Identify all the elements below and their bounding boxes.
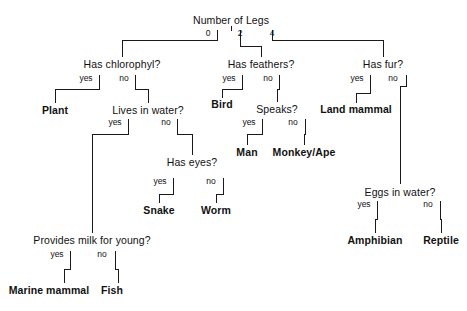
node-has-fur: Has fur? <box>363 58 403 70</box>
edge-milk-yes <box>64 251 70 283</box>
edge-speaks-no <box>304 119 305 145</box>
edge-label-root-4: 4 <box>270 28 275 38</box>
node-plant: Plant <box>42 104 68 116</box>
edge-root-0 <box>122 30 217 57</box>
edge-label-root-2: 2 <box>238 28 243 38</box>
edge-label-feathers-yes: yes <box>222 73 235 83</box>
edge-label-eyes-yes: yes <box>153 176 166 186</box>
edge-water-yes <box>92 119 128 233</box>
edge-label-root-0: 0 <box>206 28 211 38</box>
edge-eggs-yes <box>375 201 377 233</box>
node-man: Man <box>236 146 257 158</box>
edge-label-speaks-yes: yes <box>242 117 255 127</box>
node-land-mammal: Land mammal <box>320 103 392 115</box>
node-has-chlorophyl: Has chlorophyl? <box>84 58 161 70</box>
edge-feathers-no <box>277 75 279 102</box>
edge-label-water-yes: yes <box>108 117 121 127</box>
edge-label-chlorophyl-no: no <box>119 73 128 83</box>
node-monkey-ape: Monkey/Ape <box>273 146 336 158</box>
edge-water-no <box>177 119 192 155</box>
edge-eyes-no <box>216 178 223 203</box>
node-provides-milk: Provides milk for young? <box>33 234 150 246</box>
edge-label-water-no: no <box>161 117 170 127</box>
edge-label-feathers-no: no <box>263 73 272 83</box>
node-eggs-in-water: Eggs in water? <box>365 186 436 198</box>
node-snake: Snake <box>143 204 174 216</box>
edge-label-eggs-yes: yes <box>357 199 370 209</box>
edge-label-chlorophyl-yes: yes <box>79 73 92 83</box>
edge-label-milk-no: no <box>97 249 106 259</box>
node-speaks: Speaks? <box>256 103 298 115</box>
edge-connector-layer <box>0 0 467 311</box>
edge-label-fur-no: no <box>388 73 397 83</box>
node-marine-mammal: Marine mammal <box>9 284 90 296</box>
edge-label-eyes-no: no <box>206 176 215 186</box>
edge-label-milk-yes: yes <box>50 249 63 259</box>
edge-label-speaks-no: no <box>288 117 297 127</box>
node-amphibian: Amphibian <box>347 234 402 246</box>
edge-label-fur-yes: yes <box>350 73 363 83</box>
edge-eggs-no <box>440 201 441 233</box>
edge-root-2 <box>240 30 261 57</box>
edge-root-4 <box>272 30 383 57</box>
node-has-eyes: Has eyes? <box>167 156 218 168</box>
edge-label-eggs-no: no <box>423 199 432 209</box>
edge-milk-no <box>115 251 118 283</box>
node-fish: Fish <box>101 284 123 296</box>
node-reptile: Reptile <box>423 234 459 246</box>
node-number-of-legs: Number of Legs <box>193 14 269 26</box>
decision-tree-diagram: Number of Legs Has chlorophyl? Has feath… <box>0 0 467 311</box>
node-lives-in-water: Lives in water? <box>112 104 184 116</box>
node-worm: Worm <box>201 204 231 216</box>
node-bird: Bird <box>211 98 232 110</box>
node-has-feathers: Has feathers? <box>228 58 295 70</box>
edge-fur-no <box>400 75 406 184</box>
edge-chlorophyl-no <box>135 75 148 103</box>
